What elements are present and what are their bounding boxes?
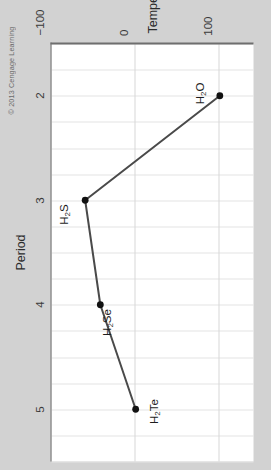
x-tick-label: 4 xyxy=(33,301,45,307)
data-point-marker xyxy=(96,301,103,308)
point-label-h2te: H2Te xyxy=(147,398,159,423)
y-axis-title: Temperature (°C) xyxy=(145,0,159,33)
point-label-h2s: H2S xyxy=(57,204,69,224)
x-tick-label: 2 xyxy=(33,92,45,98)
point-label-h2se: H2Se xyxy=(100,309,112,336)
x-axis-line xyxy=(50,42,52,461)
data-point-marker xyxy=(132,405,139,412)
y-tick-label: 0 xyxy=(117,29,129,35)
y-tick-label: 100 xyxy=(201,16,213,35)
rotated-figure: © 2013 Cengage Learning 2345 −1000100 H2… xyxy=(0,0,271,470)
x-tick-label: 3 xyxy=(33,197,45,203)
data-point-marker xyxy=(81,196,88,203)
y-axis-line xyxy=(50,42,253,44)
series-polyline xyxy=(85,95,220,409)
x-axis-title: Period xyxy=(13,234,27,270)
figure-canvas: © 2013 Cengage Learning 2345 −1000100 H2… xyxy=(0,0,271,470)
plot-wrapper: 2345 −1000100 H2OH2SH2SeH2Te Period Temp… xyxy=(51,43,253,461)
y-tick-label: −100 xyxy=(33,9,45,35)
x-tick-label: 5 xyxy=(33,406,45,412)
copyright-notice: © 2013 Cengage Learning xyxy=(6,26,15,114)
point-label-h2o: H2O xyxy=(193,82,205,104)
